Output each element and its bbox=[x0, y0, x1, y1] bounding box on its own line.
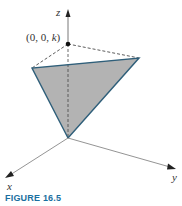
point-label: (0, 0, k) bbox=[26, 32, 60, 43]
figure-caption: FIGURE 16.5 bbox=[5, 193, 61, 203]
y-axis bbox=[68, 138, 170, 167]
point-label-prefix: (0, 0, bbox=[26, 31, 52, 43]
x-axis bbox=[10, 138, 68, 175]
dashed-edge-right bbox=[68, 44, 139, 58]
point-label-suffix: ) bbox=[57, 31, 61, 43]
y-axis-arrowhead bbox=[167, 164, 176, 170]
x-axis-label: x bbox=[7, 181, 12, 192]
x-axis-arrowhead bbox=[5, 171, 14, 178]
z-axis-arrowhead bbox=[66, 9, 71, 17]
figure-16-5: z (0, 0, k) x y FIGURE 16.5 bbox=[0, 0, 182, 206]
z-axis-label: z bbox=[56, 7, 60, 18]
y-axis-label: y bbox=[172, 172, 177, 183]
dashed-edge-left bbox=[32, 44, 68, 68]
point-0-0-k bbox=[66, 42, 71, 47]
